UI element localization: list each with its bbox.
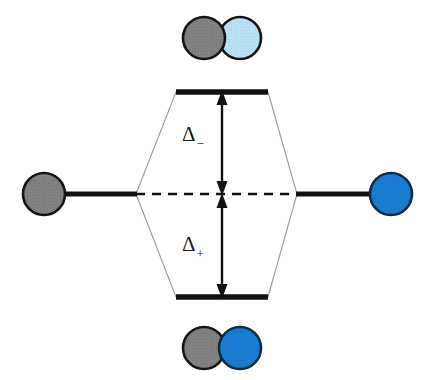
- delta-minus-arrow: [217, 90, 228, 196]
- bonding-orbital-overlap: [183, 327, 261, 369]
- delta-plus-arrow: [217, 193, 228, 299]
- delta-plus-symbol: Δ: [182, 232, 196, 256]
- correlation-right-up: [268, 92, 297, 194]
- left-atomic-orbital: [23, 173, 65, 215]
- antibonding-orbital-overlap: [183, 17, 261, 59]
- correlation-left-up: [136, 92, 176, 194]
- correlation-right-down: [268, 194, 297, 297]
- mo-diagram-canvas: [0, 0, 431, 380]
- correlation-left-down: [136, 194, 176, 297]
- delta-plus-label: Δ+: [182, 234, 203, 258]
- delta-plus-subscript: +: [197, 246, 204, 261]
- delta-minus-subscript: −: [197, 136, 204, 151]
- right-atomic-orbital: [370, 173, 412, 215]
- delta-minus-symbol: Δ: [182, 122, 196, 146]
- delta-minus-label: Δ−: [182, 124, 203, 148]
- mo-energy-diagram: Δ− Δ+: [0, 0, 431, 380]
- antibonding-gray-lobe: [183, 17, 225, 59]
- bonding-blue-lobe: [219, 327, 261, 369]
